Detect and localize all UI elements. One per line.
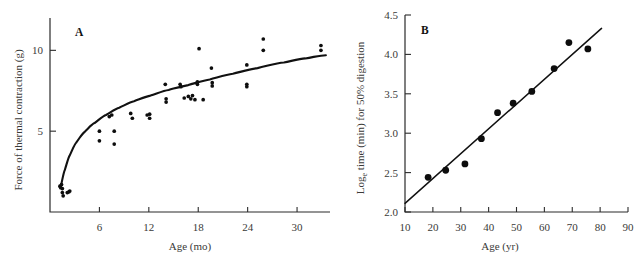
panel-b-y-tick-label: 4.5	[384, 9, 398, 21]
panel-b-data-point	[462, 161, 469, 168]
panel-a-data-point	[61, 191, 65, 195]
panel-a-data-point	[193, 98, 197, 102]
panel-a-data-point	[98, 129, 102, 133]
panel-a-x-tick-labels: 612182430	[97, 221, 303, 233]
panel-a-data-point	[110, 113, 114, 117]
panel-a-data-point	[210, 66, 214, 70]
panel-a-data-point	[319, 44, 323, 48]
panel-a-x-tick-label: 24	[242, 221, 254, 233]
panel-a-letter: A	[75, 26, 84, 38]
panel-b-plot: 102030405060708090 2.02.53.03.54.04.5 B …	[340, 0, 641, 257]
panel-a-data-point	[191, 94, 195, 98]
panel-b-data-point	[510, 100, 517, 107]
panel-a-data-point	[261, 37, 265, 41]
panel-b-x-tick-label: 50	[511, 221, 523, 233]
panel-a-data-point	[197, 47, 201, 51]
panel-a-data-point	[261, 48, 265, 52]
panel-a-data-point	[61, 194, 65, 198]
panel-b-tick-marks	[405, 15, 628, 212]
panel-b-y-tick-label: 4.0	[384, 48, 398, 60]
panel-b-data-point	[494, 109, 501, 116]
panel-b-letter: B	[421, 24, 429, 36]
panel-a-data-point	[245, 85, 249, 89]
panel-a-data-point	[164, 100, 168, 104]
figure-root: 612182430 510 A Age (mo) Force of therma…	[0, 0, 641, 257]
panel-a-x-tick-label: 30	[292, 221, 304, 233]
panel-b-x-tick-label: 70	[567, 221, 579, 233]
panel-a-data-point	[61, 187, 65, 191]
panel-a-data-point	[148, 116, 152, 120]
panel-a-y-axis-label: Force of thermal contraction (g)	[12, 49, 25, 190]
panel-a-data-point	[201, 98, 205, 102]
panel-b-x-tick-label: 20	[427, 221, 439, 233]
panel-a-plot: 612182430 510 A Age (mo) Force of therma…	[0, 0, 340, 257]
panel-a-data-point	[189, 97, 193, 101]
panel-a-tick-marks	[50, 50, 297, 212]
panel-a-data-point	[319, 48, 323, 52]
panel-a-x-tick-label: 6	[97, 221, 103, 233]
panel-a-data-point	[60, 183, 64, 187]
panel-a-fit-curve	[61, 55, 326, 187]
panel-a-x-tick-label: 18	[193, 221, 205, 233]
panel-a-data-point	[179, 85, 183, 89]
panel-b: 102030405060708090 2.02.53.03.54.04.5 B …	[340, 0, 641, 257]
panel-b-x-tick-label: 40	[483, 221, 495, 233]
panel-a: 612182430 510 A Age (mo) Force of therma…	[0, 0, 340, 257]
panel-a-y-tick-label: 10	[32, 44, 44, 56]
panel-a-data-point	[129, 112, 133, 116]
panel-b-data-point	[566, 39, 573, 46]
panel-b-y-tick-labels: 2.02.53.03.54.04.5	[384, 9, 398, 218]
panel-b-x-tick-label: 10	[400, 221, 412, 233]
panel-a-x-axis-label: Age (mo)	[169, 240, 212, 253]
panel-b-y-tick-label: 3.0	[384, 127, 398, 139]
panel-a-y-tick-label: 5	[38, 125, 44, 137]
panel-b-axis-frame	[405, 15, 628, 212]
panel-a-data-point	[98, 139, 102, 143]
panel-a-data-point	[131, 116, 135, 120]
panel-b-x-tick-label: 90	[623, 221, 635, 233]
panel-a-data-point	[112, 129, 116, 133]
panel-b-x-tick-labels: 102030405060708090	[400, 221, 635, 233]
panel-a-axes	[50, 18, 330, 212]
panel-a-axis-frame	[50, 18, 330, 212]
panel-a-x-tick-label: 12	[143, 221, 154, 233]
panel-b-x-tick-label: 80	[595, 221, 607, 233]
panel-b-y-tick-label: 2.0	[384, 206, 398, 218]
panel-b-y-tick-label: 2.5	[384, 167, 398, 179]
panel-b-data-point	[551, 65, 558, 72]
panel-b-x-axis-label: Age (yr)	[481, 240, 519, 253]
panel-b-data-point	[442, 167, 449, 174]
panel-a-data-point	[210, 84, 214, 88]
panel-b-axes	[405, 15, 628, 212]
panel-b-data-point	[478, 135, 485, 142]
panel-a-data-point	[68, 189, 72, 193]
panel-b-x-tick-label: 30	[455, 221, 467, 233]
panel-b-data-point	[425, 174, 432, 181]
panel-a-data-point	[196, 82, 200, 86]
panel-a-data-point	[164, 97, 168, 101]
panel-b-y-tick-label: 3.5	[384, 88, 398, 100]
panel-b-data-point	[584, 45, 591, 52]
panel-a-y-tick-labels: 510	[32, 44, 44, 137]
panel-b-x-tick-label: 60	[539, 221, 551, 233]
panel-b-data-point	[528, 88, 535, 95]
panel-a-data-point	[163, 82, 167, 86]
panel-a-data-point	[210, 81, 214, 85]
panel-a-data-point	[148, 112, 152, 116]
panel-a-data-point	[245, 63, 249, 67]
panel-a-data-point	[112, 142, 116, 146]
panel-b-y-axis-label: Loge time (min) for 50% digestion	[354, 41, 369, 194]
panel-a-data-point	[182, 96, 186, 100]
panel-a-data-points	[58, 37, 323, 198]
panel-b-fit-line	[405, 28, 602, 203]
